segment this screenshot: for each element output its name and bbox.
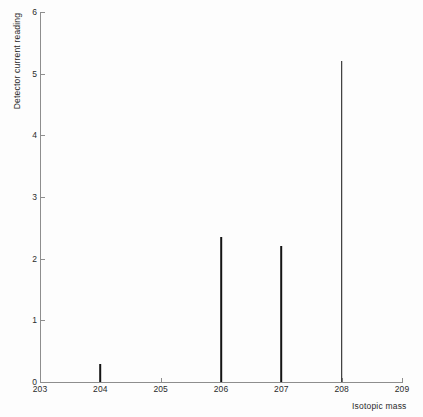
- x-tick-label-209: 209: [395, 384, 409, 394]
- peak-bar-208: [341, 61, 343, 382]
- x-tick-label-207: 207: [274, 384, 288, 394]
- y-tick-label-5: 5: [27, 69, 37, 79]
- y-tick-1: [41, 320, 45, 321]
- y-tick-label-4: 4: [27, 130, 37, 140]
- x-axis-title: Isotopic mass: [352, 401, 407, 411]
- y-tick-label-2: 2: [27, 254, 37, 264]
- y-tick-label-6: 6: [27, 7, 37, 17]
- plot-area: 203204205206207208209 0123456 Detector c…: [0, 0, 423, 417]
- y-tick-3: [41, 197, 45, 198]
- y-tick-2: [41, 259, 45, 260]
- x-tick-205: [161, 378, 162, 382]
- x-tick-label-208: 208: [334, 384, 348, 394]
- y-axis-title: Detector current reading: [12, 0, 22, 136]
- y-tick-5: [41, 74, 45, 75]
- x-tick-label-205: 205: [153, 384, 167, 394]
- peak-bar-204: [100, 364, 102, 383]
- x-tick-203: [40, 378, 41, 382]
- x-axis-line: [40, 382, 403, 383]
- x-tick-209: [402, 378, 403, 382]
- peak-bar-207: [281, 246, 283, 382]
- x-tick-label-206: 206: [214, 384, 228, 394]
- y-tick-6: [41, 12, 45, 13]
- peak-bar-206: [220, 237, 222, 382]
- x-tick-label-204: 204: [93, 384, 107, 394]
- mass-spectrum-chart: 203204205206207208209 0123456 Detector c…: [0, 0, 423, 417]
- y-tick-label-3: 3: [27, 192, 37, 202]
- y-tick-label-1: 1: [27, 315, 37, 325]
- y-tick-label-0: 0: [27, 377, 37, 387]
- y-tick-4: [41, 135, 45, 136]
